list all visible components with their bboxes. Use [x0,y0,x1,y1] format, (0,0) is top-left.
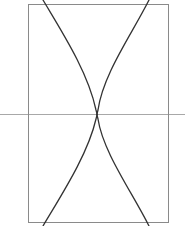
hourglass-curve-figure [0,0,185,226]
figure-container [0,0,185,226]
figure-background [0,0,185,226]
